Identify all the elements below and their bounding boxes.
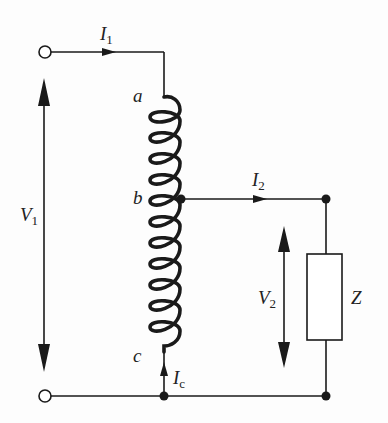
v2-arrow-up-icon	[278, 226, 290, 252]
v1-arrow-up-icon	[38, 78, 50, 106]
input-bottom-terminal	[39, 390, 51, 402]
label-tap-b: b	[133, 188, 143, 207]
label-v1: V1	[20, 205, 38, 227]
i2-arrow-icon	[253, 195, 267, 203]
load-top-junction	[322, 195, 331, 204]
ic-arrow-icon	[160, 362, 168, 376]
autotransformer-diagram: I1 I2 Ic V1 V2 Z a b c	[0, 0, 388, 423]
label-ic: Ic	[173, 368, 185, 390]
label-tap-c: c	[133, 346, 141, 365]
tap-b-junction	[177, 195, 186, 204]
input-top-terminal	[39, 46, 51, 58]
load-bottom-junction	[322, 392, 331, 401]
label-z: Z	[351, 288, 362, 307]
circuit-svg	[0, 0, 388, 423]
label-v2: V2	[258, 288, 276, 310]
impedance-z	[307, 254, 342, 340]
bottom-node-junction	[160, 392, 169, 401]
label-i1: I1	[100, 24, 113, 46]
label-tap-a: a	[133, 86, 143, 105]
coil-winding	[150, 97, 180, 352]
v1-arrow-down-icon	[38, 344, 50, 372]
v2-arrow-down-icon	[278, 342, 290, 368]
i1-arrow-icon	[102, 48, 116, 56]
label-i2: I2	[252, 170, 265, 192]
